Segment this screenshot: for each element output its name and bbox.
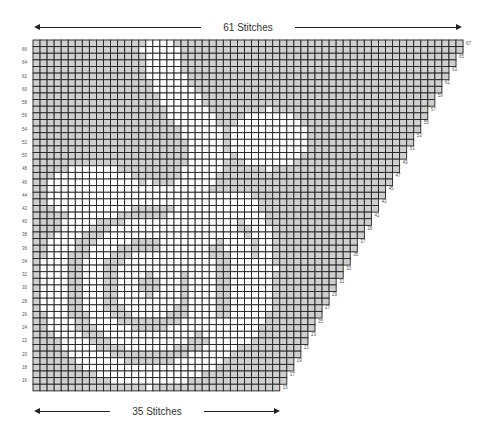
stitch-cell	[287, 232, 294, 239]
stitch-cell	[378, 47, 385, 54]
row-number-label: 17	[290, 372, 295, 378]
stitch-cell	[315, 40, 322, 47]
stitch-cell	[237, 219, 244, 226]
stitch-cell	[287, 212, 294, 219]
stitch-cell	[371, 133, 378, 140]
stitch-cell	[167, 179, 174, 186]
stitch-cell	[146, 265, 153, 272]
stitch-cell	[273, 305, 280, 312]
stitch-cell	[386, 172, 393, 179]
stitch-cell	[104, 139, 111, 146]
stitch-cell	[386, 86, 393, 93]
stitch-cell	[153, 192, 160, 199]
stitch-cell	[209, 258, 216, 265]
stitch-cell	[343, 119, 350, 126]
row-number-label: 48	[22, 166, 27, 172]
stitch-cell	[273, 258, 280, 265]
stitch-cell	[188, 378, 195, 385]
stitch-cell	[252, 285, 259, 292]
stitch-cell	[195, 371, 202, 378]
stitch-cell	[40, 325, 47, 332]
stitch-cell	[364, 66, 371, 73]
stitch-cell	[139, 73, 146, 80]
stitch-cell	[301, 80, 308, 87]
stitch-cell	[245, 239, 252, 246]
stitch-cell	[237, 305, 244, 312]
stitch-cell	[287, 93, 294, 100]
stitch-cell	[181, 351, 188, 358]
stitch-cell	[364, 219, 371, 226]
row-number-label: 61	[445, 80, 450, 86]
stitch-cell	[33, 40, 40, 47]
stitch-cell	[132, 239, 139, 246]
stitch-cell	[280, 345, 287, 352]
stitch-cell	[371, 93, 378, 100]
stitch-cell	[139, 100, 146, 107]
stitch-cell	[33, 285, 40, 292]
stitch-cell	[294, 212, 301, 219]
stitch-cell	[132, 378, 139, 385]
stitch-cell	[40, 172, 47, 179]
stitch-cell	[61, 206, 68, 213]
stitch-cell	[139, 212, 146, 219]
stitch-cell	[230, 80, 237, 87]
stitch-cell	[273, 153, 280, 160]
stitch-cell	[259, 305, 266, 312]
stitch-cell	[160, 364, 167, 371]
stitch-cell	[301, 153, 308, 160]
stitch-cell	[315, 126, 322, 133]
stitch-cell	[322, 146, 329, 153]
stitch-cell	[139, 86, 146, 93]
stitch-cell	[223, 60, 230, 67]
stitch-cell	[336, 186, 343, 193]
stitch-cell	[104, 345, 111, 352]
stitch-cell	[181, 318, 188, 325]
stitch-cell	[364, 40, 371, 47]
stitch-cell	[414, 86, 421, 93]
stitch-cell	[343, 100, 350, 107]
stitch-cell	[132, 53, 139, 60]
stitch-cell	[139, 172, 146, 179]
stitch-cell	[266, 258, 273, 265]
stitch-cell	[322, 186, 329, 193]
stitch-cell	[54, 172, 61, 179]
stitch-cell	[132, 311, 139, 318]
stitch-cell	[75, 179, 82, 186]
stitch-cell	[146, 258, 153, 265]
stitch-cell	[146, 166, 153, 173]
bottom-stitch-count-label: 35 Stitches	[110, 406, 203, 417]
stitch-cell	[237, 133, 244, 140]
stitch-cell	[167, 66, 174, 73]
stitch-cell	[104, 351, 111, 358]
stitch-cell	[252, 93, 259, 100]
stitch-cell	[216, 60, 223, 67]
stitch-cell	[209, 364, 216, 371]
stitch-cell	[294, 225, 301, 232]
stitch-cell	[125, 139, 132, 146]
stitch-cell	[132, 206, 139, 213]
stitch-cell	[153, 245, 160, 252]
stitch-cell	[364, 126, 371, 133]
stitch-cell	[252, 80, 259, 87]
stitch-cell	[209, 139, 216, 146]
stitch-cell	[266, 265, 273, 272]
stitch-cell	[153, 53, 160, 60]
row-number-label: 29	[332, 292, 337, 298]
stitch-cell	[336, 53, 343, 60]
stitch-cell	[153, 212, 160, 219]
stitch-cell	[336, 146, 343, 153]
stitch-cell	[322, 139, 329, 146]
stitch-cell	[400, 153, 407, 160]
stitch-cell	[111, 292, 118, 299]
stitch-cell	[181, 358, 188, 365]
stitch-cell	[61, 292, 68, 299]
stitch-cell	[280, 285, 287, 292]
stitch-cell	[54, 159, 61, 166]
stitch-cell	[111, 232, 118, 239]
stitch-cell	[96, 292, 103, 299]
stitch-cell	[259, 285, 266, 292]
stitch-cell	[280, 225, 287, 232]
stitch-cell	[75, 331, 82, 338]
stitch-cell	[75, 146, 82, 153]
stitch-cell	[322, 73, 329, 80]
